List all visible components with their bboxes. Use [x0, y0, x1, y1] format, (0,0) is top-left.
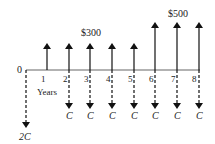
- period-label: 8: [192, 74, 197, 84]
- outflow-label: C: [109, 110, 116, 121]
- period-label: 5: [128, 74, 133, 84]
- period-label: 6: [149, 74, 154, 84]
- cash-flow-diagram: 0 2C 1 2 3 4 5 6 7 8 Years $300 $500 C C…: [0, 0, 215, 144]
- period-label: 2: [63, 74, 68, 84]
- origin-label: 0: [17, 64, 22, 75]
- outflow-label: C: [174, 110, 181, 121]
- inflow-label-500: $500: [168, 8, 188, 19]
- outflow-label: C: [152, 110, 159, 121]
- inflow-label-300: $300: [81, 27, 101, 38]
- initial-outflow-label: 2C: [19, 131, 31, 142]
- period-label: 1: [41, 74, 46, 84]
- period-label: 4: [106, 74, 111, 84]
- outflow-label: C: [87, 110, 94, 121]
- axis-label: Years: [37, 87, 58, 97]
- outflow-label: C: [196, 110, 203, 121]
- period-label: 3: [84, 74, 89, 84]
- outflow-label: C: [131, 110, 138, 121]
- outflow-label: C: [66, 110, 73, 121]
- period-label: 7: [171, 74, 176, 84]
